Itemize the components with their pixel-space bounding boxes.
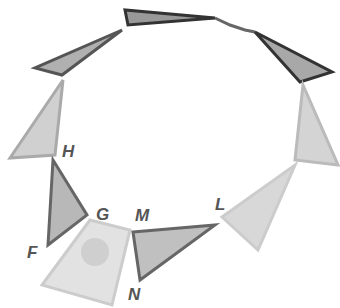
label-l: L [215, 195, 225, 215]
label-f: F [27, 243, 37, 263]
segment-top-right [255, 32, 332, 82]
label-g: G [96, 205, 109, 225]
segment-right [295, 85, 338, 165]
segment-mn [133, 225, 215, 280]
necklace-drawing [0, 0, 340, 308]
necklace-figure: H G F M N L [0, 0, 340, 308]
stone [81, 238, 109, 266]
clasp [215, 18, 255, 32]
segment-top-left [35, 30, 122, 75]
label-h: H [62, 142, 74, 162]
segment-top [125, 10, 215, 25]
label-n: N [128, 285, 140, 305]
segment-left [10, 80, 63, 158]
segment-l [222, 165, 295, 250]
label-m: M [135, 206, 149, 226]
